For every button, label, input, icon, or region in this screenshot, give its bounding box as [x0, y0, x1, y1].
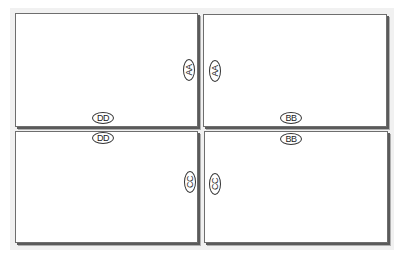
panel-bottom-right — [204, 131, 388, 243]
panel-bottom-left — [15, 131, 198, 243]
label-bb-bottom-right-panel: BB — [280, 133, 302, 145]
panel-top-left — [15, 13, 198, 127]
label-dd-top-left-panel: DD — [92, 112, 114, 124]
label-dd-bottom-left-panel: DD — [92, 132, 114, 144]
panel-top-right — [203, 14, 387, 127]
label-cc-bottom-left-panel: CC — [184, 171, 196, 193]
label-bb-top-right-panel: BB — [280, 112, 302, 124]
label-cc-bottom-right-panel: CC — [209, 173, 221, 195]
label-aa-top-left-panel: AA — [183, 59, 195, 81]
label-aa-top-right-panel: AA — [209, 60, 221, 82]
